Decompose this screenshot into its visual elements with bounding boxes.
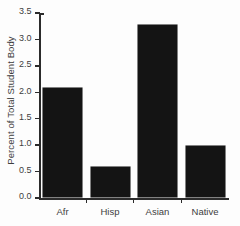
y-axis-tick: 3.0 xyxy=(35,39,40,40)
x-axis-category-label: Afr xyxy=(42,206,83,217)
y-axis-tick: 2.0 xyxy=(35,92,40,93)
y-axis-tick-label: 2.0 xyxy=(19,86,32,96)
bar xyxy=(185,145,226,198)
y-axis-tick: 1.5 xyxy=(35,118,40,119)
bar-chart-figure: Percent of Total Student Body 0.00.51.01… xyxy=(0,0,240,226)
y-axis-tick-label: 3.0 xyxy=(19,33,32,43)
bar xyxy=(90,166,131,198)
x-axis-category-label: Native xyxy=(185,206,226,217)
y-axis-tick: 0.5 xyxy=(35,171,40,172)
y-axis-tick: 1.0 xyxy=(35,144,40,145)
x-axis-category-label: Asian xyxy=(137,206,178,217)
bar xyxy=(42,87,83,198)
x-axis-tick xyxy=(86,198,87,203)
y-axis-tick-label: 0.0 xyxy=(19,191,32,201)
plot-area: 0.00.51.01.52.02.53.03.5 AfrHispAsianNat… xyxy=(39,13,229,198)
bar xyxy=(137,24,178,198)
y-axis-tick-label: 0.5 xyxy=(19,165,32,175)
x-axis-tick xyxy=(133,198,134,203)
x-axis-tick xyxy=(181,198,182,203)
x-axis-category-label: Hisp xyxy=(90,206,131,217)
y-axis-top-cap xyxy=(39,13,44,15)
y-axis-tick-label: 1.0 xyxy=(19,138,32,148)
y-axis-tick-label: 3.5 xyxy=(19,6,32,16)
y-axis-tick: 3.5 xyxy=(35,12,40,13)
y-axis-title: Percent of Total Student Body xyxy=(0,0,20,200)
y-axis-title-text: Percent of Total Student Body xyxy=(5,36,16,164)
y-axis-tick-label: 2.5 xyxy=(19,59,32,69)
y-axis-tick-label: 1.5 xyxy=(19,112,32,122)
y-axis-tick: 0.0 xyxy=(35,197,40,198)
y-axis-tick: 2.5 xyxy=(35,65,40,66)
